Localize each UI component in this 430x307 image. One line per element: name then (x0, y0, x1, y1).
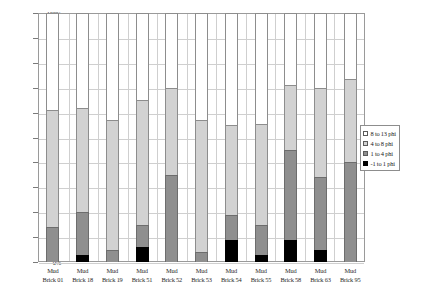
bar-segment[interactable] (76, 212, 89, 254)
bar-segment[interactable] (46, 227, 59, 262)
bar-segment[interactable] (165, 13, 178, 88)
stacked-bar[interactable] (76, 13, 89, 262)
bar-segment[interactable] (165, 88, 178, 175)
bar-segment[interactable] (344, 79, 357, 162)
x-axis-label-line1: Mud (246, 266, 276, 275)
x-axis-label-line2: Brick 53 (187, 275, 217, 284)
stacked-bar[interactable] (225, 13, 238, 262)
bar-segment[interactable] (225, 13, 238, 125)
bar-segment[interactable] (76, 13, 89, 108)
bar-segment[interactable] (225, 125, 238, 215)
bar-segment[interactable] (225, 240, 238, 262)
bar-segment[interactable] (46, 110, 59, 227)
x-axis-label-line2: Brick 51 (127, 275, 157, 284)
stacked-bar[interactable] (255, 13, 268, 262)
bar-segment[interactable] (136, 225, 149, 247)
stacked-bar[interactable] (106, 13, 119, 262)
bar-segment[interactable] (314, 250, 327, 262)
bar-segment[interactable] (136, 13, 149, 100)
bar-segment[interactable] (195, 120, 208, 252)
x-axis-label: MudBrick 18 (68, 266, 98, 284)
bar-segment[interactable] (284, 13, 297, 85)
bar-segment[interactable] (255, 255, 268, 262)
bar-segment[interactable] (76, 108, 89, 213)
stacked-bar[interactable] (165, 13, 178, 262)
legend-item[interactable]: 4 to 8 phi (363, 138, 396, 148)
bar-segment[interactable] (136, 247, 149, 262)
bar-segment[interactable] (136, 100, 149, 225)
bar-slot (276, 13, 306, 262)
horizontal-gridline (39, 263, 364, 264)
bar-slot (187, 13, 217, 262)
stacked-bar[interactable] (314, 13, 327, 262)
bar-segment[interactable] (46, 13, 59, 110)
x-axis-label: MudBrick 52 (157, 266, 187, 284)
bar-segment[interactable] (106, 13, 119, 120)
legend-label: 8 to 13 phi (371, 130, 396, 137)
x-axis-label-line1: Mud (306, 266, 336, 275)
x-axis-label-line1: Mud (187, 266, 217, 275)
x-axis-label-line1: Mud (127, 266, 157, 275)
x-axis-label-line1: Mud (276, 266, 306, 275)
legend-item[interactable]: 1 to 4 phi (363, 148, 396, 158)
x-axis-label-line2: Brick 52 (157, 275, 187, 284)
bar-segment[interactable] (225, 215, 238, 240)
x-axis-label-line2: Brick 55 (246, 275, 276, 284)
bar-slot (306, 13, 336, 262)
x-axis-label: MudBrick 01 (38, 266, 68, 284)
x-axis-label-line2: Brick 01 (38, 275, 68, 284)
bar-segment[interactable] (314, 177, 327, 249)
bar-segment[interactable] (106, 250, 119, 262)
legend-label: 4 to 8 phi (371, 140, 393, 147)
x-axis-label-line1: Mud (157, 266, 187, 275)
bar-slot (157, 13, 187, 262)
legend-item[interactable]: -1 to 1 phi (363, 158, 396, 168)
x-axis-label: MudBrick 51 (127, 266, 157, 284)
stacked-bar[interactable] (136, 13, 149, 262)
bar-segment[interactable] (255, 225, 268, 255)
bar-segment[interactable] (165, 175, 178, 262)
bar-segment[interactable] (344, 162, 357, 262)
legend-label: 1 to 4 phi (371, 150, 393, 157)
bar-segment[interactable] (314, 13, 327, 88)
stacked-bar[interactable] (284, 13, 297, 262)
legend-swatch-medium-gray (363, 151, 368, 156)
x-axis-label: MudBrick 55 (246, 266, 276, 284)
bar-slot (38, 13, 68, 262)
bar-segment[interactable] (314, 88, 327, 178)
bar-segment[interactable] (195, 13, 208, 120)
x-axis-label: MudBrick 53 (187, 266, 217, 284)
x-axis-label-line2: Brick 19 (97, 275, 127, 284)
bar-segment[interactable] (255, 13, 268, 124)
stacked-bar[interactable] (46, 13, 59, 262)
bar-segment[interactable] (284, 150, 297, 240)
bar-segment[interactable] (76, 255, 89, 262)
bar-slot (246, 13, 276, 262)
x-axis-label-line2: Brick 63 (306, 275, 336, 284)
legend-swatch-white (363, 131, 368, 136)
bar-slot (216, 13, 246, 262)
bar-segment[interactable] (284, 240, 297, 262)
x-axis-label-line1: Mud (335, 266, 365, 275)
bar-segment[interactable] (106, 120, 119, 249)
stacked-bar[interactable] (195, 13, 208, 262)
legend-item[interactable]: 8 to 13 phi (363, 128, 396, 138)
x-axis-label: MudBrick 19 (97, 266, 127, 284)
x-axis-label-line1: Mud (68, 266, 98, 275)
x-axis-label: MudBrick 63 (306, 266, 336, 284)
bar-segment[interactable] (195, 252, 208, 262)
stacked-bar-chart: 100%90%80%70%60%50%40%30%20%10%0% MudBri… (0, 0, 430, 307)
bar-segment[interactable] (284, 85, 297, 150)
legend-label: -1 to 1 phi (371, 160, 395, 167)
x-axis-label-line1: Mud (97, 266, 127, 275)
x-axis-label-line1: Mud (216, 266, 246, 275)
bar-group (38, 13, 365, 262)
x-axis-label-line2: Brick 95 (335, 275, 365, 284)
bar-slot (68, 13, 98, 262)
bar-segment[interactable] (255, 124, 268, 225)
stacked-bar[interactable] (344, 13, 357, 262)
legend: 8 to 13 phi4 to 8 phi1 to 4 phi-1 to 1 p… (360, 125, 400, 171)
bar-segment[interactable] (344, 13, 357, 79)
legend-swatch-light-gray (363, 141, 368, 146)
x-axis-label: MudBrick 58 (276, 266, 306, 284)
